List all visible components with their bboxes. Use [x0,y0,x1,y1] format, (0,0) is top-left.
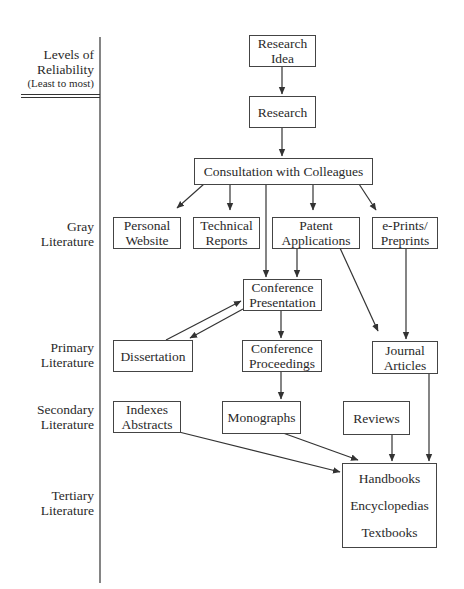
node-label: Patent [299,218,333,233]
node-research: Research [249,96,316,128]
levels-header-line2: Reliability [27,62,94,77]
node-label: Idea [271,51,294,66]
node-label: Applications [282,233,351,248]
node-dissertation: Dissertation [113,340,193,372]
level-label-secondary: Secondary Literature [37,402,94,432]
node-conference-presentation: Conference Presentation [243,279,322,311]
level-label-line1: Tertiary [41,488,94,503]
node-label: Dissertation [120,349,185,364]
levels-header: Levels of Reliability (Least to most) [27,47,94,90]
node-label: Articles [384,358,427,373]
level-label-line1: Primary [41,340,94,355]
node-tertiary-works: Handbooks Encyclopedias Textbooks [342,463,437,548]
node-reviews: Reviews [343,401,410,435]
node-patent-applications: Patent Applications [272,217,360,249]
node-label: Journal [385,343,425,358]
arrow-dissertation-to-presentation [166,301,241,340]
levels-header-line3: (Least to most) [27,77,94,90]
node-label: Proceedings [249,356,315,371]
level-label-line2: Literature [41,234,94,249]
level-label-line1: Gray [41,219,94,234]
arrow-indexes-to-tertiary [179,432,340,472]
node-label: Encyclopedias [350,498,429,513]
node-label: Monographs [227,410,295,425]
node-label: Research [258,36,307,51]
level-label-line2: Literature [41,355,94,370]
arrow-patent-to-journal [340,248,378,331]
levels-header-line1: Levels of [27,47,94,62]
node-label: e-Prints/ [382,218,428,233]
level-label-line1: Secondary [37,402,94,417]
node-label: Preprints [381,233,430,248]
node-indexes-abstracts: Indexes Abstracts [113,401,181,433]
node-conference-proceedings: Conference Proceedings [242,340,322,372]
node-monographs: Monographs [222,401,301,434]
level-label-gray: Gray Literature [41,219,94,249]
node-label: Conference [251,280,313,295]
node-label: Textbooks [361,525,417,540]
node-label: Indexes [126,402,168,417]
node-consultation: Consultation with Colleagues [194,158,373,185]
node-label: Website [125,233,168,248]
node-label: Technical [200,218,252,233]
node-label: Reports [206,233,248,248]
node-label: Reviews [353,411,400,426]
node-label: Personal [124,218,171,233]
level-label-line2: Literature [41,503,94,518]
node-label: Research [258,105,307,120]
node-label: Conference [251,341,313,356]
arrow-consultation-to-eprints [359,184,376,210]
node-label: Presentation [249,295,316,310]
node-eprints: e-Prints/ Preprints [372,217,438,249]
level-label-line2: Literature [37,417,94,432]
arrow-consultation-to-personal [177,184,204,208]
node-research-idea: Research Idea [249,35,316,67]
level-label-tertiary: Tertiary Literature [41,488,94,518]
node-journal-articles: Journal Articles [372,341,438,374]
level-label-primary: Primary Literature [41,340,94,370]
arrow-monographs-to-tertiary [283,433,358,460]
node-label: Consultation with Colleagues [204,164,364,179]
node-label: Abstracts [122,417,173,432]
node-technical-reports: Technical Reports [193,217,260,249]
node-label: Handbooks [359,471,421,486]
node-personal-website: Personal Website [113,217,181,249]
